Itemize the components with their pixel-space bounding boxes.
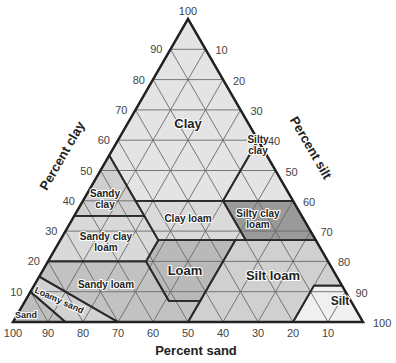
sand-tick: 40 <box>217 327 229 339</box>
sand-tick: 10 <box>322 327 334 339</box>
clay-tick: 60 <box>98 134 110 146</box>
clay-tick: 30 <box>45 225 57 237</box>
clay-tick: 80 <box>133 74 145 86</box>
label-sand: Sand <box>15 310 37 320</box>
clay-axis-title: Percent clay <box>36 118 88 193</box>
label-clay: Clay <box>174 116 202 131</box>
label-loam: Loam <box>168 263 203 278</box>
silt-tick: 40 <box>268 135 280 147</box>
sand-tick: 50 <box>182 327 194 339</box>
silt-tick: 100 <box>373 317 391 329</box>
sand-axis-title: Percent sand <box>155 343 237 358</box>
clay-tick: 70 <box>115 104 127 116</box>
sand-tick: 30 <box>252 327 264 339</box>
silt-tick: 90 <box>356 287 368 299</box>
label-silty-clay: Siltyclay <box>247 134 269 156</box>
sand-tick: 80 <box>77 327 89 339</box>
sand-tick: 100 <box>4 327 22 339</box>
clay-tick: 100 <box>179 5 197 17</box>
silt-tick: 60 <box>303 196 315 208</box>
sand-tick: 90 <box>42 327 54 339</box>
silt-tick: 20 <box>233 75 245 87</box>
label-silt-loam: Silt loam <box>246 268 300 283</box>
sand-tick: 60 <box>147 327 159 339</box>
sand-tick: 20 <box>287 327 299 339</box>
clay-tick: 90 <box>150 43 162 55</box>
clay-tick: 10 <box>10 286 22 298</box>
label-silt: Silt <box>331 294 350 308</box>
sand-tick: 70 <box>112 327 124 339</box>
silt-tick: 50 <box>286 166 298 178</box>
silt-tick: 70 <box>321 226 333 238</box>
clay-tick: 20 <box>28 255 40 267</box>
silt-tick: 80 <box>338 256 350 268</box>
silt-tick: 30 <box>251 105 263 117</box>
soil-texture-triangle: ClaySiltyclaySandyclayClay loamSilty cla… <box>0 0 396 363</box>
label-clay-loam: Clay loam <box>164 213 211 224</box>
clay-tick: 40 <box>63 195 75 207</box>
label-sandy-loam: Sandy loam <box>78 279 134 290</box>
clay-tick: 50 <box>80 165 92 177</box>
silt-tick: 10 <box>216 44 228 56</box>
